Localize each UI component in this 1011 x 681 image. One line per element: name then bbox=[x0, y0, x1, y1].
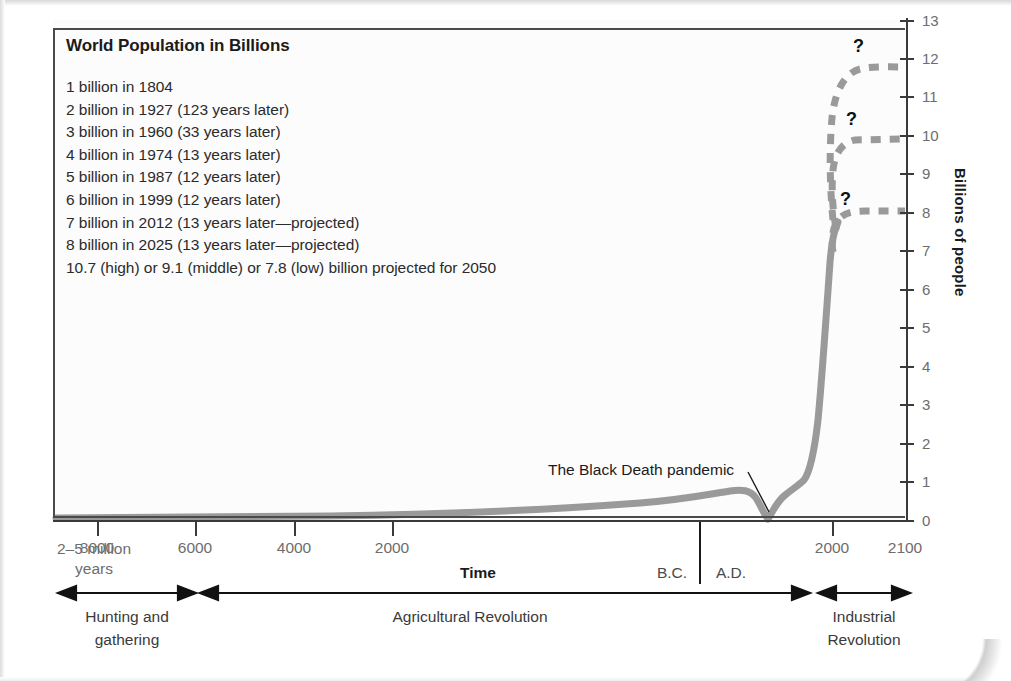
y-tick-label: 6 bbox=[922, 281, 930, 298]
x-tick-label: 2000 bbox=[375, 539, 409, 557]
era-caption-industrial-revolution: Industrial Revolution bbox=[827, 605, 900, 651]
low-projection-question-mark: ? bbox=[840, 189, 851, 210]
fact-line: 6 billion in 1999 (12 years later) bbox=[66, 189, 626, 212]
epoch-label-ad: A.D. bbox=[716, 564, 746, 582]
fact-line: 2 billion in 1927 (123 years later) bbox=[66, 99, 626, 122]
fact-line: 10.7 (high) or 9.1 (middle) or 7.8 (low)… bbox=[66, 257, 626, 280]
era-arrow-industrial-revolution bbox=[818, 586, 910, 600]
population-growth-figure: World Population in Billions 1 billion i… bbox=[0, 0, 1011, 681]
y-tick bbox=[900, 481, 914, 483]
y-tick-label: 1 bbox=[922, 473, 930, 490]
page-edge-top bbox=[0, 0, 1011, 6]
y-tick bbox=[900, 173, 914, 175]
era-caption-line1: Hunting and bbox=[85, 605, 169, 628]
x-tick-label: 2100 bbox=[888, 539, 922, 557]
page-edge-left bbox=[0, 0, 5, 681]
x-tick bbox=[832, 522, 834, 536]
page-edge-bottom bbox=[0, 677, 1011, 681]
y-tick-label: 12 bbox=[922, 50, 939, 67]
y-tick bbox=[900, 96, 914, 98]
y-axis-title: Billions of people bbox=[952, 168, 969, 297]
era-caption-line2: gathering bbox=[85, 628, 169, 651]
y-tick-label: 11 bbox=[922, 88, 938, 105]
era-arrow-hunting-gathering bbox=[58, 586, 196, 600]
high-projection-question-mark: ? bbox=[853, 36, 864, 57]
middle-projection-question-mark: ? bbox=[846, 109, 857, 130]
y-tick-label: 4 bbox=[922, 358, 930, 375]
x-axis-line bbox=[53, 520, 908, 522]
info-box-title: World Population in Billions bbox=[66, 36, 626, 56]
fact-line: 1 billion in 1804 bbox=[66, 76, 626, 99]
y-tick bbox=[900, 250, 914, 252]
y-tick-label: 8 bbox=[922, 204, 930, 221]
y-tick bbox=[900, 404, 914, 406]
y-tick bbox=[900, 327, 914, 329]
y-tick-label: 13 bbox=[922, 12, 939, 29]
fact-line: 5 billion in 1987 (12 years later) bbox=[66, 166, 626, 189]
info-box-content: World Population in Billions 1 billion i… bbox=[66, 36, 626, 279]
x-axis-origin-line2: years bbox=[57, 559, 131, 579]
era-caption-line2: Revolution bbox=[827, 628, 900, 651]
fact-line: 4 billion in 1974 (13 years later) bbox=[66, 144, 626, 167]
era-caption-line1: Industrial bbox=[827, 605, 900, 628]
black-death-annotation: The Black Death pandemic bbox=[548, 461, 734, 479]
x-axis-origin-line1: 2–5 million bbox=[57, 539, 131, 559]
y-axis-line bbox=[906, 18, 908, 522]
y-tick bbox=[900, 58, 914, 60]
y-tick bbox=[900, 212, 914, 214]
y-tick bbox=[900, 520, 914, 522]
x-tick bbox=[294, 522, 296, 536]
bc-ad-divider bbox=[699, 522, 701, 584]
x-axis-origin-label: 2–5 million years bbox=[57, 539, 131, 579]
y-tick bbox=[900, 443, 914, 445]
era-caption-line1: Agricultural Revolution bbox=[392, 605, 547, 628]
y-tick-label: 2 bbox=[922, 435, 930, 452]
fact-line: 3 billion in 1960 (33 years later) bbox=[66, 121, 626, 144]
x-axis-title: Time bbox=[460, 564, 496, 582]
y-tick-label: 0 bbox=[922, 512, 930, 529]
fact-line: 7 billion in 2012 (13 years later—projec… bbox=[66, 212, 626, 235]
y-tick-label: 9 bbox=[922, 165, 930, 182]
y-tick-label: 5 bbox=[922, 319, 930, 336]
y-tick-label: 7 bbox=[922, 242, 930, 259]
era-caption-hunting-gathering: Hunting and gathering bbox=[85, 605, 169, 651]
y-tick-label: 10 bbox=[922, 127, 939, 144]
x-tick-label: 2000 bbox=[815, 539, 849, 557]
y-tick-label: 3 bbox=[922, 396, 930, 413]
y-tick bbox=[900, 289, 914, 291]
x-tick bbox=[97, 522, 99, 536]
era-caption-agricultural-revolution: Agricultural Revolution bbox=[392, 605, 547, 628]
era-arrow-agricultural-revolution bbox=[200, 586, 810, 600]
epoch-label-bc: B.C. bbox=[657, 564, 687, 582]
y-tick bbox=[900, 366, 914, 368]
x-tick bbox=[392, 522, 394, 536]
fact-line: 8 billion in 2025 (13 years later—projec… bbox=[66, 234, 626, 257]
y-tick bbox=[900, 135, 914, 137]
x-tick-label: 6000 bbox=[178, 539, 212, 557]
y-tick bbox=[900, 20, 914, 22]
x-tick-label: 4000 bbox=[277, 539, 311, 557]
page-corner-fold bbox=[929, 639, 1011, 681]
x-tick bbox=[195, 522, 197, 536]
